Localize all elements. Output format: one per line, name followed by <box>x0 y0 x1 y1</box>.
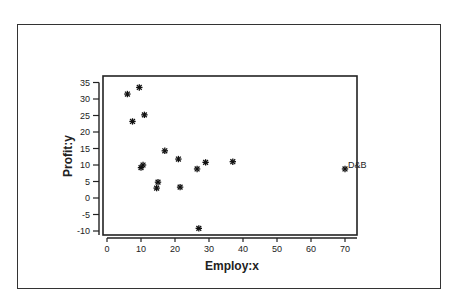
x-tick-label: 60 <box>306 244 316 254</box>
y-axis: -10-505101520253035 <box>77 78 99 237</box>
data-points: D&B <box>124 84 366 231</box>
y-axis-title: Profit:y <box>61 135 75 177</box>
data-point <box>175 156 181 162</box>
y-tick-label: 15 <box>80 144 90 154</box>
data-point <box>141 112 147 118</box>
data-point <box>194 166 200 172</box>
data-point <box>136 84 142 90</box>
y-tick-label: -5 <box>82 210 90 220</box>
data-point <box>196 225 202 231</box>
data-point <box>129 118 135 124</box>
x-axis-title: Employ:x <box>205 259 259 273</box>
data-point <box>153 185 159 191</box>
x-tick-label: 50 <box>272 244 282 254</box>
data-point <box>124 91 130 97</box>
y-tick-label: 35 <box>80 78 90 88</box>
x-tick-label: 40 <box>238 244 248 254</box>
data-point-label: D&B <box>348 160 367 170</box>
data-point <box>177 184 183 190</box>
data-point <box>202 159 208 165</box>
data-point <box>138 164 144 170</box>
x-tick-label: 70 <box>340 244 350 254</box>
data-point <box>230 159 236 165</box>
data-point <box>155 179 161 185</box>
y-tick-label: 20 <box>80 127 90 137</box>
x-tick-label: 10 <box>136 244 146 254</box>
scatter-chart: 010203040506070 -10-505101520253035 D&B … <box>0 0 458 305</box>
x-tick-label: 0 <box>104 244 109 254</box>
y-tick-label: 10 <box>80 160 90 170</box>
x-tick-label: 20 <box>170 244 180 254</box>
x-axis: 010203040506070 <box>104 238 357 254</box>
y-tick-label: 5 <box>85 177 90 187</box>
y-tick-label: -10 <box>77 226 90 236</box>
y-tick-label: 25 <box>80 111 90 121</box>
y-tick-label: 0 <box>85 193 90 203</box>
x-tick-label: 30 <box>204 244 214 254</box>
data-point <box>162 148 168 154</box>
plot-area <box>103 76 357 235</box>
y-tick-label: 30 <box>80 94 90 104</box>
